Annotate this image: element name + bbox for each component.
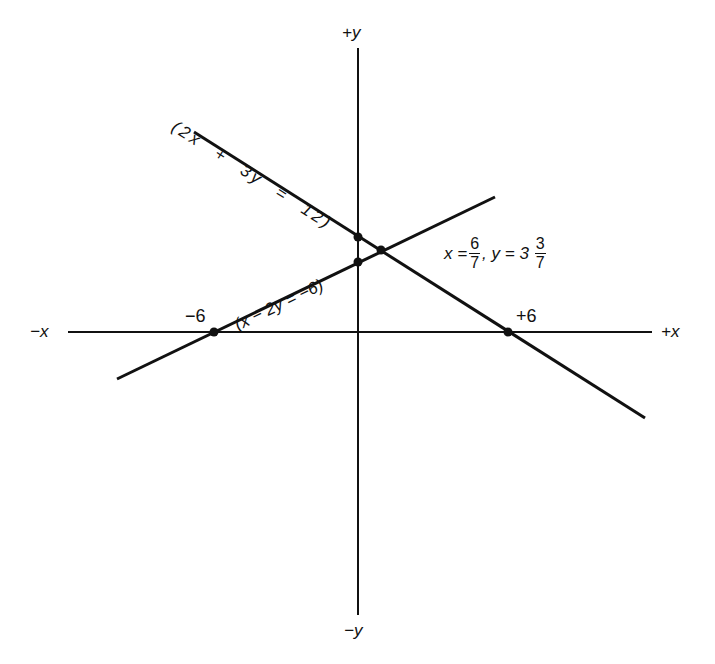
x-pos-label: +x	[661, 323, 679, 340]
solution-label: x = 6 7 , y = 3 3 7	[444, 236, 548, 271]
tick-pos-six: +6	[516, 307, 537, 325]
point-x-intercept-neg6	[210, 328, 219, 337]
point-x-intercept-pos6	[504, 328, 513, 337]
solution-x-fraction: 6 7	[469, 236, 480, 271]
point-solution	[377, 246, 386, 255]
y-neg-label: −y	[344, 622, 362, 639]
tick-neg-six: −6	[185, 307, 206, 325]
solution-x-prefix: x =	[444, 245, 467, 262]
solution-y-prefix: , y = 3	[482, 245, 529, 262]
point-y-intercept-4	[354, 233, 363, 242]
solution-y-fraction: 3 7	[535, 236, 546, 271]
graph-canvas	[0, 0, 715, 664]
point-y-intercept-3	[354, 258, 363, 267]
y-pos-label: +y	[342, 24, 360, 41]
x-neg-label: −x	[30, 323, 48, 340]
